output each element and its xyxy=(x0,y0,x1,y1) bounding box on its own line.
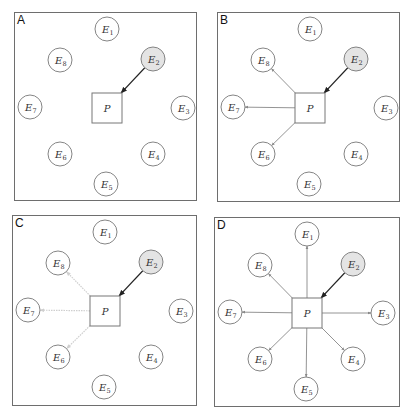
node-e6: E6 xyxy=(48,142,72,166)
edge-p-to-e6 xyxy=(272,123,295,146)
svg-text:2: 2 xyxy=(359,59,363,67)
node-p: P xyxy=(90,296,120,326)
svg-text:1: 1 xyxy=(110,29,114,37)
svg-text:4: 4 xyxy=(156,154,160,162)
svg-text:3: 3 xyxy=(389,108,393,116)
node-e7: E7 xyxy=(16,298,40,322)
node-e3: E3 xyxy=(169,299,193,323)
svg-text:7: 7 xyxy=(236,107,240,115)
node-p: P xyxy=(295,93,325,123)
edge-p-to-e4 xyxy=(322,328,345,351)
node-e2: E2 xyxy=(141,47,165,71)
svg-text:5: 5 xyxy=(109,184,113,192)
node-e2: E2 xyxy=(139,250,163,274)
svg-text:4: 4 xyxy=(356,359,360,367)
svg-text:3: 3 xyxy=(184,311,188,319)
node-e2: E2 xyxy=(344,47,368,71)
edge-e2-to-p xyxy=(121,68,145,93)
panel-c: C PE1E2E3E4E5E6E7E8 xyxy=(12,215,197,406)
node-e1: E1 xyxy=(295,222,319,246)
node-e6: E6 xyxy=(46,345,70,369)
svg-text:4: 4 xyxy=(359,154,363,162)
svg-text:2: 2 xyxy=(154,262,158,270)
svg-text:6: 6 xyxy=(266,154,270,162)
svg-text:P: P xyxy=(306,103,314,114)
svg-text:3: 3 xyxy=(386,313,390,321)
svg-text:6: 6 xyxy=(263,359,267,367)
edge-p-to-e7 xyxy=(245,107,295,108)
svg-text:2: 2 xyxy=(356,264,360,272)
edge-p-to-e6 xyxy=(67,326,90,349)
svg-text:5: 5 xyxy=(107,387,111,395)
node-e5: E5 xyxy=(94,172,118,196)
edge-e2-to-p xyxy=(321,273,345,298)
edge-p-to-e5 xyxy=(306,328,307,377)
diagram-c: PE1E2E3E4E5E6E7E8 xyxy=(13,216,198,407)
svg-text:8: 8 xyxy=(263,265,267,273)
svg-text:P: P xyxy=(103,103,111,114)
node-e4: E4 xyxy=(344,142,368,166)
node-e7: E7 xyxy=(218,300,242,324)
edge-e2-to-p xyxy=(119,271,143,296)
node-e2: E2 xyxy=(341,252,365,276)
svg-text:8: 8 xyxy=(61,263,65,271)
edge-p-to-e8 xyxy=(66,272,90,296)
node-e3: E3 xyxy=(171,96,195,120)
node-e8: E8 xyxy=(251,48,275,72)
node-e4: E4 xyxy=(139,345,163,369)
diagram-b: PE1E2E3E4E5E6E7E8 xyxy=(218,13,401,203)
svg-text:8: 8 xyxy=(63,60,67,68)
diagram-a: PE1E2E3E4E5E6E7E8 xyxy=(15,13,198,202)
diagram-d: PE1E2E3E4E5E6E7E8 xyxy=(215,218,401,408)
node-e8: E8 xyxy=(48,48,72,72)
edge-p-to-e8 xyxy=(271,69,295,93)
node-e7: E7 xyxy=(221,95,245,119)
node-e1: E1 xyxy=(93,220,117,244)
edge-p-to-e6 xyxy=(269,328,292,351)
svg-text:1: 1 xyxy=(310,234,314,242)
node-e6: E6 xyxy=(248,347,272,371)
svg-text:6: 6 xyxy=(61,357,65,365)
edge-p-to-e7 xyxy=(242,312,292,313)
node-p: P xyxy=(92,93,122,123)
svg-text:P: P xyxy=(101,306,109,317)
panel-d: D PE1E2E3E4E5E6E7E8 xyxy=(214,217,400,407)
edge-p-to-e7 xyxy=(40,310,90,311)
svg-text:4: 4 xyxy=(154,357,158,365)
node-e1: E1 xyxy=(95,17,119,41)
svg-text:6: 6 xyxy=(63,154,67,162)
edge-e2-to-p xyxy=(324,68,348,93)
node-e5: E5 xyxy=(92,375,116,399)
node-p: P xyxy=(292,298,322,328)
svg-text:5: 5 xyxy=(312,184,316,192)
node-e4: E4 xyxy=(341,347,365,371)
svg-text:8: 8 xyxy=(266,60,270,68)
svg-text:7: 7 xyxy=(33,107,37,115)
node-e8: E8 xyxy=(46,251,70,275)
node-e3: E3 xyxy=(371,301,395,325)
panel-b: B PE1E2E3E4E5E6E7E8 xyxy=(217,12,400,202)
node-e3: E3 xyxy=(374,96,398,120)
node-e4: E4 xyxy=(141,142,165,166)
svg-text:1: 1 xyxy=(108,232,112,240)
svg-text:P: P xyxy=(303,308,311,319)
svg-text:7: 7 xyxy=(233,312,237,320)
svg-text:2: 2 xyxy=(156,59,160,67)
node-e7: E7 xyxy=(18,95,42,119)
node-e5: E5 xyxy=(297,172,321,196)
svg-text:1: 1 xyxy=(313,29,317,37)
svg-text:7: 7 xyxy=(31,310,35,318)
node-e5: E5 xyxy=(294,377,318,401)
node-e1: E1 xyxy=(298,17,322,41)
panel-a: A PE1E2E3E4E5E6E7E8 xyxy=(14,12,197,201)
node-e8: E8 xyxy=(248,253,272,277)
svg-text:5: 5 xyxy=(309,389,313,397)
node-e6: E6 xyxy=(251,142,275,166)
svg-text:3: 3 xyxy=(186,108,190,116)
edge-p-to-e8 xyxy=(268,274,292,298)
